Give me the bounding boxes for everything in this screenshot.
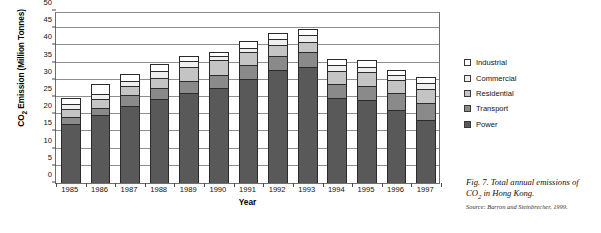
bar-segment-power <box>387 110 407 183</box>
bar-segment-transport <box>239 65 259 79</box>
bar-segment-transport <box>179 81 199 93</box>
legend-label: Industrial <box>476 58 507 67</box>
bar-segment-residential <box>179 67 199 81</box>
x-axis-tick-label: 1989 <box>180 185 197 194</box>
x-axis-tick-mark <box>352 183 353 187</box>
bar-stack <box>327 59 347 183</box>
y-axis-tick-label: 0 <box>48 170 52 179</box>
bar-segment-transport <box>327 84 347 98</box>
y-axis-title-suffix: Emission (Million Tonnes) <box>16 9 26 111</box>
y-axis-title-subscript: 2 <box>21 111 28 115</box>
x-axis-tick-mark <box>323 183 324 187</box>
bar-stack <box>61 98 81 183</box>
stacked-bar-chart: CO2 Emission (Million Tonnes) 0510152025… <box>0 0 460 233</box>
x-axis-tick-mark <box>145 183 146 187</box>
bar-segment-residential <box>387 80 407 93</box>
bar-segment-transport <box>150 88 170 99</box>
y-axis-tick-label: 35 <box>44 49 52 58</box>
x-axis-title: Year <box>55 197 440 207</box>
x-axis-tick-label: 1992 <box>269 185 286 194</box>
bar-stack <box>209 52 229 183</box>
bar-segment-power <box>239 79 259 183</box>
figure-caption: Fig. 7. Total annual emissions of CO2 in… <box>466 177 594 211</box>
legend-item-residential[interactable]: Residential <box>464 86 554 101</box>
legend-item-transport[interactable]: Transport <box>464 101 554 116</box>
x-axis-tick-mark <box>234 183 235 187</box>
legend-label: Transport <box>476 104 508 113</box>
bar-segment-industrial <box>150 64 170 71</box>
x-axis-tick-label: 1996 <box>387 185 404 194</box>
bar-stack <box>91 84 111 183</box>
x-axis-tick-label: 1987 <box>121 185 138 194</box>
y-axis-title-prefix: CO <box>16 114 26 126</box>
legend-swatch-commercial <box>464 75 471 82</box>
bar-segment-transport <box>91 108 111 116</box>
x-axis-tick-label: 1993 <box>298 185 315 194</box>
y-axis-tick-label: 30 <box>44 66 52 75</box>
x-axis-tick-mark <box>115 183 116 187</box>
bar-stack <box>298 29 318 183</box>
bar-stack <box>357 60 377 183</box>
caption-main-text: Fig. 7. Total annual emissions of CO2 in… <box>466 177 594 202</box>
x-axis-tick-mark <box>86 183 87 187</box>
bar-segment-industrial <box>91 84 111 94</box>
bar-segment-power <box>298 67 318 183</box>
bar-segment-transport <box>61 117 81 124</box>
bar-stack <box>268 33 288 183</box>
legend-item-commercial[interactable]: Commercial <box>464 70 554 85</box>
bar-segment-residential <box>268 45 288 56</box>
x-axis-tick-mark <box>56 183 57 187</box>
bar-segment-power <box>327 98 347 183</box>
legend: IndustrialCommercialResidentialTransport… <box>464 55 554 132</box>
x-axis-tick-label: 1986 <box>91 185 108 194</box>
bar-segment-power <box>150 99 170 183</box>
x-axis-tick-mark <box>441 183 442 187</box>
legend-label: Commercial <box>476 74 517 83</box>
bar-segment-transport <box>268 56 288 70</box>
plot-area: 05101520253035404550 <box>55 12 440 184</box>
bar-segment-power <box>179 93 199 183</box>
bar-segment-industrial <box>120 74 140 81</box>
x-axis-tick-mark <box>174 183 175 187</box>
x-axis-tick-label: 1995 <box>358 185 375 194</box>
x-axis-tick-label: 1991 <box>239 185 256 194</box>
bar-stack <box>179 56 199 183</box>
y-axis-tick-label: 20 <box>44 101 52 110</box>
legend-swatch-industrial <box>464 59 471 66</box>
x-axis-tick-mark <box>293 183 294 187</box>
bar-segment-commercial <box>298 35 318 42</box>
bar-segment-residential <box>298 42 318 52</box>
caption-suffix: in Hong Kong. <box>481 188 534 198</box>
x-axis-tick-label: 1997 <box>417 185 434 194</box>
legend-swatch-residential <box>464 90 471 97</box>
legend-item-power[interactable]: Power <box>464 117 554 132</box>
bar-segment-residential <box>357 72 377 85</box>
legend-item-industrial[interactable]: Industrial <box>464 55 554 70</box>
bar-segment-power <box>268 70 288 183</box>
bar-segment-industrial <box>298 29 318 36</box>
x-axis-tick-label: 1990 <box>209 185 226 194</box>
y-axis-tick-label: 50 <box>44 0 52 7</box>
x-axis-tick-label: 1994 <box>328 185 345 194</box>
bars-layer <box>56 13 439 183</box>
bar-segment-transport <box>357 86 377 101</box>
y-axis-tick-label: 10 <box>44 135 52 144</box>
legend-swatch-transport <box>464 105 471 112</box>
y-axis-title: CO2 Emission (Million Tonnes) <box>16 0 28 143</box>
figure-co2-emissions-hong-kong: CO2 Emission (Million Tonnes) 0510152025… <box>0 0 601 233</box>
bar-stack <box>150 64 170 183</box>
bar-segment-power <box>120 106 140 183</box>
bar-stack <box>387 70 407 183</box>
legend-swatch-power <box>464 121 471 128</box>
x-axis-tick-mark <box>263 183 264 187</box>
caption-source: Source: Barron and Steinbrecher, 1999. <box>466 203 594 211</box>
bar-segment-residential <box>416 89 436 103</box>
bar-segment-residential <box>327 71 347 83</box>
bar-segment-power <box>357 100 377 183</box>
y-axis-tick-mark <box>52 10 56 11</box>
bar-segment-residential <box>209 60 229 75</box>
bar-segment-power <box>416 120 436 183</box>
bar-stack <box>120 74 140 183</box>
bar-segment-residential <box>239 52 259 65</box>
bar-stack <box>239 41 259 183</box>
